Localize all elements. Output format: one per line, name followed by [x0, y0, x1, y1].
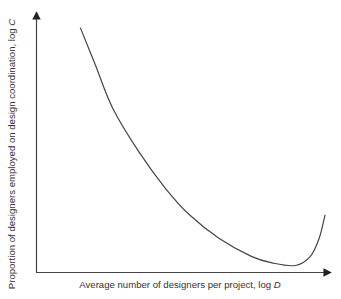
x-axis-label: Average number of designers per project,…	[60, 279, 300, 291]
y-axis-label: Proportion of designers employed on desi…	[6, 14, 18, 294]
chart	[0, 0, 341, 299]
data-curve	[80, 28, 325, 266]
